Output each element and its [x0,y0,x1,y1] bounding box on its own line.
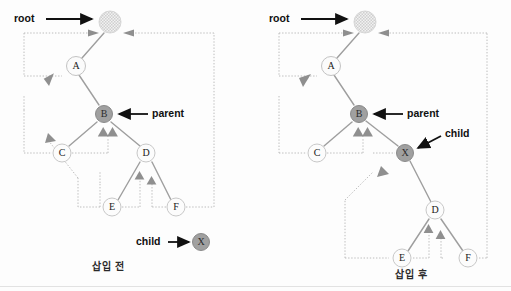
link-b-c [69,122,97,146]
link-x-d [410,161,431,202]
left-diagram-canvas [0,0,256,291]
thread-arrow-up-to-d-2 [147,176,157,185]
annotation-arrows-group [301,19,441,148]
thread-arrow-diag-to-x [377,166,389,177]
link-root-a [337,33,359,58]
parent-annotation-label: parent [152,108,184,119]
root-node[interactable] [354,11,376,33]
thread-links-group [279,33,487,258]
node-c[interactable] [308,144,326,162]
thread-arrow-into-root-right [123,30,134,37]
node-b[interactable] [96,106,113,123]
root-annotation-label: root [269,13,289,24]
node-e[interactable] [393,249,411,267]
link-d-f [441,219,463,251]
thread-arrow-into-root-left [88,30,99,37]
node-b[interactable] [351,106,368,123]
link-d-e [408,219,429,251]
node-e[interactable] [103,198,121,216]
node-c[interactable] [53,144,71,162]
thread-x-left-diag [345,172,373,200]
parent-annotation-label: parent [407,108,439,119]
root-node[interactable] [99,11,121,33]
link-root-a [82,33,104,58]
right-diagram-canvas [255,0,511,291]
diagram-after-insertion: A B C X D E F root parent child 삽입 후 [255,0,511,291]
thread-arrow-up-to-b-1 [353,127,364,137]
thread-arrow-up-to-b-2 [107,127,118,137]
node-f[interactable] [459,249,477,267]
node-x[interactable] [193,234,210,251]
link-d-e [118,162,140,200]
child-annotation-arrow [418,136,441,148]
thread-arrow-into-root-right [378,30,389,37]
link-d-f [152,162,171,200]
node-a[interactable] [67,57,86,76]
node-x[interactable] [397,145,414,162]
link-a-b [334,75,354,105]
thread-arrow-up-to-b-1 [98,127,109,137]
caption-after-insertion: 삽입 후 [395,266,427,281]
thread-arrow-diag-to-a [45,133,56,143]
root-annotation-label: root [14,13,34,24]
thread-arrow-up-to-d-2 [436,230,446,239]
caption-before-insertion: 삽입 전 [92,258,124,273]
thread-arrow-up-to-b-2 [362,127,373,137]
bottom-divider [0,286,511,287]
link-b-c [324,122,352,146]
node-a[interactable] [322,57,341,76]
thread-arrow-up-to-d-1 [135,171,145,180]
child-annotation-label: child [136,236,161,247]
node-d[interactable] [426,201,444,219]
diagram-before-insertion: A B C D E F X root parent child 삽입 전 [0,0,256,291]
link-a-b [79,75,99,105]
thread-links-group [24,33,214,207]
thread-arrow-into-a-diag [43,73,56,86]
nodes-group [308,11,477,267]
thread-arrow-into-root-left [343,30,354,37]
node-f[interactable] [167,198,185,216]
child-annotation-label: child [445,128,470,139]
node-d[interactable] [137,144,155,162]
nodes-group [53,11,210,251]
thread-arrowheads-group [299,30,445,240]
tree-links-group [324,33,463,251]
